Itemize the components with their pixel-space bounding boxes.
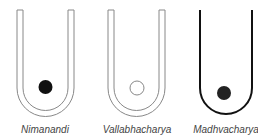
label-nimanandi: Nimanandi — [2, 124, 88, 135]
tube-nimanandi — [17, 10, 74, 117]
label-vallabhacharya: Vallabhacharya — [94, 124, 180, 135]
ball-filled-icon — [39, 80, 53, 94]
tube-vallabhacharya — [108, 10, 165, 116]
tube-madhvacharya — [200, 10, 252, 114]
label-madhvacharya: Madhvacharya — [183, 124, 258, 135]
ball-filled-icon — [217, 86, 231, 100]
ball-hollow-icon — [130, 81, 144, 95]
diagram-canvas — [0, 0, 258, 140]
